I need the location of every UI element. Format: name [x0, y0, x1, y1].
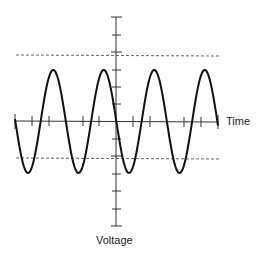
voltage-axis-label: Voltage	[96, 234, 133, 246]
upper-amplitude-line	[16, 55, 220, 56]
lower-amplitude-line	[16, 158, 220, 159]
time-axis-label: Time	[226, 115, 250, 127]
sine-wave-diagram	[0, 0, 263, 255]
